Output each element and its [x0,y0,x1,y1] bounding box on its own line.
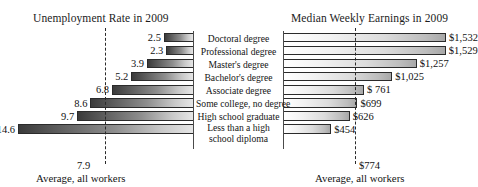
category-label: Associate degree [196,85,281,96]
unemployment-bar [131,72,194,82]
earnings-bar-row: $1,257 [283,57,464,70]
category-label: Professional degree [196,46,281,57]
unemployment-value-label: 8.6 [74,97,87,110]
earnings-bar-row: $ 761 [283,83,464,96]
unemployment-value-label: 3.9 [131,57,144,70]
unemployment-bar-row: 5.2 [0,70,194,83]
earnings-bar [283,72,392,82]
category-label-column: Doctoral degreeProfessional degreeMaster… [196,31,281,149]
left-average-caption: Average, all workers [36,172,125,184]
unemployment-panel: 2.52.33.95.26.88.69.714.6 [0,31,194,149]
earnings-value-label: $ 761 [367,83,391,96]
earnings-value-label: $1,257 [420,57,449,70]
unemployment-bar [147,59,194,69]
earnings-bar [283,46,446,56]
left-panel-title: Unemployment Rate in 2009 [33,12,169,24]
unemployment-value-label: 14.6 [0,123,15,136]
earnings-bar [283,98,357,108]
right-average-reference-line [355,28,356,164]
earnings-bar [283,59,417,69]
category-label: Doctoral degree [196,33,281,44]
earnings-value-label: $1,532 [449,31,478,44]
earnings-bar-row: $1,529 [283,44,464,57]
earnings-bar [283,33,446,43]
unemployment-value-label: 2.5 [148,31,161,44]
earnings-bar-row: $1,532 [283,31,464,44]
right-panel-title: Median Weekly Earnings in 2009 [291,12,448,24]
earnings-panel: $1,532$1,529$1,257$1,025$ 761$699$626$45… [283,31,464,149]
unemployment-value-label: 2.3 [150,44,163,57]
unemployment-bar-row: 14.6 [0,123,194,136]
right-average-value: $774 [359,160,380,171]
unemployment-bar [77,111,194,121]
unemployment-bar [112,85,194,95]
category-label: Some college, no degree [196,98,281,109]
right-axis-spine [283,31,284,149]
category-label: Bachelor's degree [196,72,281,83]
earnings-value-label: $1,025 [395,70,424,83]
earnings-bar [283,111,350,121]
left-average-reference-line [105,28,106,164]
earnings-bar-row: $454 [283,123,464,136]
earnings-value-label: $699 [360,97,381,110]
unemployment-bar [166,46,194,56]
earnings-bar-row: $1,025 [283,70,464,83]
unemployment-bar-row: 8.6 [0,97,194,110]
earnings-value-label: $1,529 [449,44,478,57]
unemployment-value-label: 9.7 [61,110,74,123]
category-label: High school graduate [196,111,281,122]
left-axis-spine [193,31,194,149]
earnings-value-label: $454 [334,123,355,136]
earnings-bar-row: $626 [283,110,464,123]
earnings-bar [283,85,364,95]
unemployment-value-label: 5.2 [115,70,128,83]
right-average-caption: Average, all workers [315,172,404,184]
earnings-bar [283,124,331,134]
unemployment-bar-row: 6.8 [0,83,194,96]
unemployment-bar-row: 2.5 [0,31,194,44]
unemployment-value-label: 6.8 [96,83,109,96]
unemployment-bar-row: 3.9 [0,57,194,70]
unemployment-bar [18,124,194,134]
category-label: Less than a high school diploma [196,123,281,144]
left-average-value: 7.9 [77,160,90,171]
unemployment-bar-row: 9.7 [0,110,194,123]
category-label: Master's degree [196,59,281,70]
earnings-bar-row: $699 [283,97,464,110]
unemployment-bar [164,33,194,43]
unemployment-bar-row: 2.3 [0,44,194,57]
